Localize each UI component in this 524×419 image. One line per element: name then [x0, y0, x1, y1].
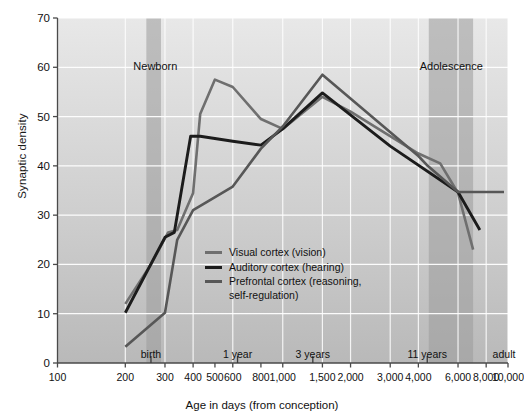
x-tick-label-10000: 10,000: [492, 371, 524, 383]
legend-swatch-1: [205, 266, 222, 269]
event-label-3-years: 3 years: [296, 348, 330, 360]
y-tick-label-70: 70: [16, 12, 50, 24]
legend-swatch-2: [205, 280, 222, 283]
x-tick-label-6000: 6,000: [445, 371, 471, 383]
legend-label-1: Auditory cortex (hearing): [229, 261, 344, 275]
legend-item-1: Auditory cortex (hearing): [205, 261, 361, 275]
chart-legend: Visual cortex (vision)Auditory cortex (h…: [205, 246, 361, 303]
x-tick-label-500: 500: [206, 371, 224, 383]
x-tick-label-800: 800: [252, 371, 270, 383]
x-tick-label-300: 300: [156, 371, 174, 383]
x-tick-labels: 1002003004005006008001,0001,5002,0003,00…: [0, 371, 524, 391]
band-label-adolescence: Adolescence: [420, 60, 483, 72]
x-tick-label-1000: 1,000: [270, 371, 296, 383]
x-tick-label-3000: 3,000: [377, 371, 403, 383]
event-label-11-years: 11 years: [407, 348, 447, 360]
legend-item-0: Visual cortex (vision): [205, 246, 361, 260]
band-label-newborn: Newborn: [133, 60, 177, 72]
x-tick-label-200: 200: [117, 371, 135, 383]
x-tick-label-100: 100: [49, 371, 67, 383]
legend-item-2: Prefrontal cortex (reasoning, self-regul…: [205, 275, 361, 302]
event-label-adult: adult: [493, 348, 516, 360]
legend-label-0: Visual cortex (vision): [229, 246, 326, 260]
y-tick-label-10: 10: [16, 308, 50, 320]
x-tick-label-4000: 4,000: [405, 371, 431, 383]
event-label-birth: birth: [141, 348, 161, 360]
x-tick-label-400: 400: [184, 371, 202, 383]
legend-label-2: Prefrontal cortex (reasoning, self-regul…: [229, 275, 361, 302]
x-tick-label-600: 600: [224, 371, 242, 383]
event-label-1-year: 1 year: [223, 348, 252, 360]
y-axis-ticks: [53, 18, 58, 363]
event-marker-labels: birth1 year3 years11 yearsadult: [0, 348, 524, 364]
x-tick-label-2000: 2,000: [337, 371, 363, 383]
legend-swatch-0: [205, 251, 222, 254]
x-tick-label-1500: 1,500: [309, 371, 335, 383]
x-axis-title: Age in days (from conception): [0, 399, 524, 411]
y-axis-title: Synaptic density: [16, 46, 28, 266]
